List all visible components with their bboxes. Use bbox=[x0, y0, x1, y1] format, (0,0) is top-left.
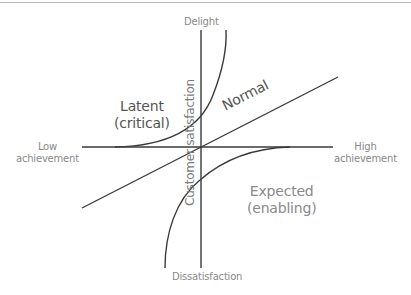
low-achievement-line1: Low bbox=[16, 141, 79, 153]
latent-line2: (critical) bbox=[114, 115, 170, 132]
expected-line2: (enabling) bbox=[247, 200, 316, 217]
expected-label: Expected (enabling) bbox=[247, 183, 316, 217]
expected-line1: Expected bbox=[247, 183, 316, 200]
high-achievement-line2: achievement bbox=[334, 153, 397, 165]
customer-satisfaction-label: Customer satisfaction bbox=[184, 86, 196, 206]
dissatisfaction-label: Dissatisfaction bbox=[172, 271, 242, 283]
high-achievement-label: High achievement bbox=[334, 141, 397, 165]
latent-line1: Latent bbox=[114, 98, 170, 115]
low-achievement-line2: achievement bbox=[16, 153, 79, 165]
latent-label: Latent (critical) bbox=[114, 98, 170, 132]
high-achievement-line1: High bbox=[334, 141, 397, 153]
delight-label: Delight bbox=[184, 16, 219, 28]
low-achievement-label: Low achievement bbox=[16, 141, 79, 165]
